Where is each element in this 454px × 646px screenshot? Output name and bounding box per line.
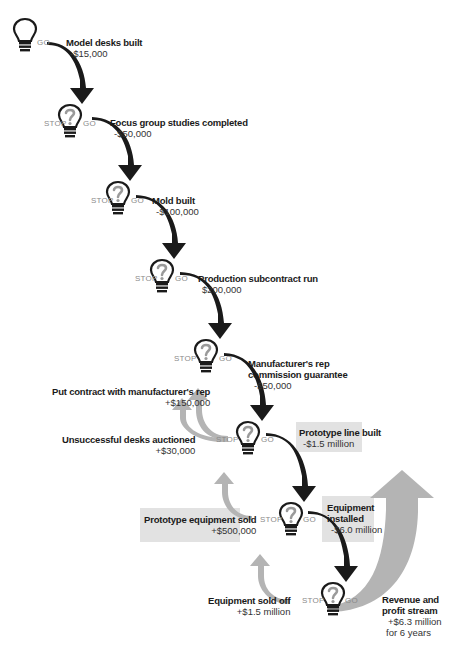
outcome-equipment-sold-off: Equipment sold off +$1.5 million — [208, 595, 290, 617]
stop-label: STOP — [44, 119, 66, 128]
question-bulb-icon — [237, 422, 259, 454]
step-equipment-installed: Equipment installed -$6.0 million — [327, 502, 382, 535]
stop-label: STOP — [174, 354, 196, 363]
outcome-contract-manufacturers-rep: Put contract with manufacturer's rep +$1… — [52, 386, 210, 408]
stop-arrows — [172, 388, 290, 604]
question-bulb-icon — [280, 503, 302, 535]
stop-label: STOP — [302, 596, 324, 605]
go-label: GO — [83, 119, 96, 128]
decision-flow-diagram — [0, 0, 454, 646]
go-label: GO — [37, 38, 50, 47]
step-prototype-line: Prototype line built -$1.5 million — [299, 427, 381, 449]
step-mold-built: Mold built -$100,000 — [152, 195, 199, 217]
question-bulb-icon — [195, 340, 217, 372]
go-label: GO — [303, 515, 316, 524]
step-model-desks: Model desks built -$15,000 — [66, 37, 142, 59]
go-label: GO — [175, 274, 188, 283]
go-label: GO — [345, 596, 358, 605]
step-manufacturers-rep: Manufacturer's rep commission guarantee … — [248, 358, 347, 391]
go-label: GO — [131, 196, 144, 205]
stop-label: STOP — [260, 515, 282, 524]
stop-label: STOP — [216, 435, 238, 444]
step-production-subcontract: Production subcontract run $200,000 — [198, 273, 318, 295]
outcome-desks-auctioned: Unsuccessful desks auctioned +$30,000 — [62, 434, 195, 456]
final-revenue-outcome: Revenue and profit stream +$6.3 million … — [382, 594, 442, 638]
go-label: GO — [261, 435, 274, 444]
outcome-prototype-equipment-sold: Prototype equipment sold +$500,000 — [144, 514, 256, 536]
stop-label: STOP — [91, 196, 113, 205]
step-focus-group: Focus group studies completed -$50,000 — [110, 117, 248, 139]
lightbulb-icon-start — [14, 19, 36, 51]
go-label: GO — [219, 354, 232, 363]
stop-label: STOP — [135, 274, 157, 283]
